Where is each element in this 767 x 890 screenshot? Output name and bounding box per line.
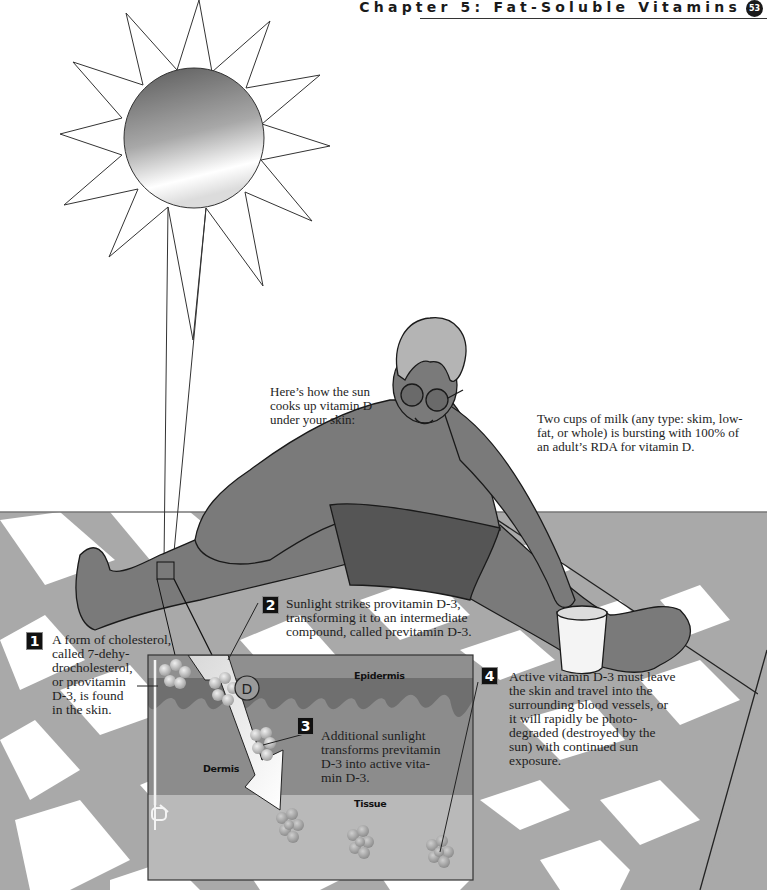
step-2-text: Sunlight strikes provitamin D-3, transfo… [286,597,472,639]
label-epidermis: Epidermis [354,670,405,681]
sun-disk [124,68,264,208]
sunglasses-right-lens [426,389,448,411]
sun [60,0,330,340]
intro-caption: Here’s how the sun cooks up vitamin D un… [270,385,372,427]
step-4-badge: 4 [481,667,498,685]
step-1-badge: 1 [26,632,43,650]
milk-glass [557,606,607,674]
step-4-text: Active vitamin D-3 must leave the skin a… [509,670,675,768]
step-3-badge: 3 [297,717,314,735]
step-2-badge: 2 [262,596,279,614]
sunglasses-left-lens [401,384,423,406]
milk-note: Two cups of milk (any type: skim, low- f… [537,412,743,454]
molecule-d-label: D [242,681,253,697]
label-tissue: Tissue [354,798,386,809]
step-1-text: A form of cholesterol, called 7-dehy- dr… [52,633,171,717]
step-3-text: Additional sunlight transforms previtami… [321,729,441,785]
label-dermis: Dermis [203,763,239,774]
